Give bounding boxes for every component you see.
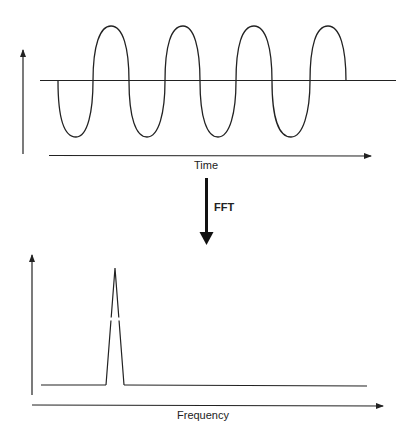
fft-diagram: Time FFT Frequency bbox=[0, 0, 406, 443]
time-domain-plot: Time bbox=[23, 26, 396, 171]
frequency-x-axis bbox=[32, 405, 383, 406]
sine-wave bbox=[58, 26, 346, 137]
frequency-domain-plot: Frequency bbox=[32, 255, 383, 421]
spectrum-baseline-right bbox=[124, 385, 367, 386]
time-axis-label: Time bbox=[194, 159, 218, 171]
frequency-axis-label: Frequency bbox=[177, 409, 229, 421]
spectrum-peak bbox=[106, 268, 124, 385]
fft-label: FFT bbox=[214, 201, 234, 213]
fft-transform-arrow: FFT bbox=[200, 178, 235, 245]
time-x-axis bbox=[49, 156, 371, 157]
fft-arrowhead-icon bbox=[200, 232, 214, 245]
